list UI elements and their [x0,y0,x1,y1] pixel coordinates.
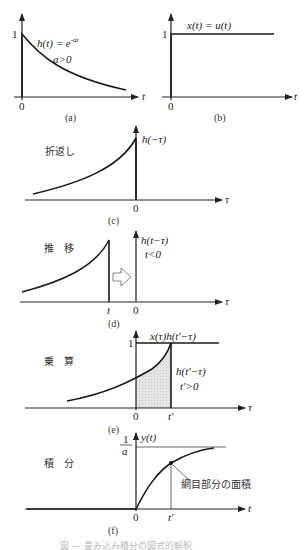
step-label: 積 分 [44,457,74,469]
origin-label: 0 [133,202,139,214]
origin-label: 0 [168,100,174,112]
condition-label: t′>0 [180,380,199,392]
step-label: 折返し [45,145,75,157]
step-label: 推 移 [44,242,74,254]
asymptote-numerator: 1 [123,433,129,445]
condition-label: a>0 [53,53,72,65]
panel-caption: (e) [108,424,119,436]
origin-label: 0 [133,410,139,422]
formula-label: h(t) = e-at [37,36,80,50]
shift-right-arrow-icon [113,268,131,286]
panel-a: 1 0 t h(t) = e-at a>0 (a) [12,14,146,124]
y-tick-1: 1 [128,337,134,349]
shift-tick-label: t [107,304,111,316]
panel-d: h(t−τ) t<0 推 移 t 0 τ (d) [20,231,230,330]
y-tick-1: 1 [12,28,18,40]
x-axis-label: t [248,502,252,514]
panel-caption: (d) [108,318,120,330]
panel-caption: (f) [108,525,118,537]
y-tick-1: 1 [162,28,168,40]
panel-caption: (a) [65,112,76,124]
x-axis-label: t [294,90,298,102]
x-axis-label: τ [248,401,253,413]
panel-b: 1 0 t x(t) = u(t) (b) [162,14,298,124]
condition-label: t<0 [145,248,161,260]
origin-label: 0 [133,304,139,316]
area-point-marker [169,461,173,465]
panel-caption: (b) [214,112,226,124]
origin-label: 0 [19,100,25,112]
product-label: x(τ)h(t′−τ) [149,330,196,343]
shift-tick-label: t′ [168,410,174,422]
origin-label: 0 [133,511,139,523]
panel-f: y(t) 1 a 網目部分の面積 積 分 0 t′ t (f) [25,431,252,537]
formula-label: x(t) = u(t) [186,19,231,32]
figure-caption: 図 — 畳み込み積分の図式的解釈 [60,540,192,550]
unit-step-line [171,34,274,97]
step-label: 乗 算 [44,355,74,367]
y-axis-label: y(t) [140,431,157,444]
x-axis-label: τ [225,295,230,307]
curve-label: h(−τ) [142,133,167,146]
convolution-diagram: 1 0 t h(t) = e-at a>0 (a) 1 0 t x(t) = u… [0,0,305,550]
curve-label: h(t′−τ) [176,365,206,378]
shift-tick-label: t′ [168,511,174,523]
annotation-label: 網目部分の面積 [181,478,251,490]
panel-e: 1 x(τ)h(t′−τ) h(t′−τ) t′>0 乗 算 0 t′ τ (e… [25,330,253,436]
asymptote-denominator: a [122,445,128,457]
x-axis-label: τ [225,193,230,205]
panel-c: h(−τ) 折返し 0 τ (c) [25,126,230,227]
curve-label: h(t−τ) [141,234,169,247]
x-axis-label: t [142,90,146,102]
panel-caption: (c) [108,215,119,227]
